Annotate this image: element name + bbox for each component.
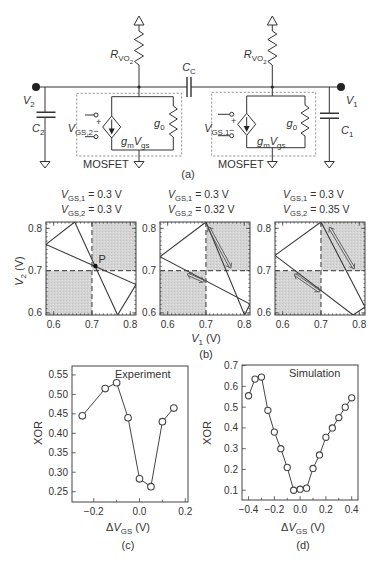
x-tick-label: −0.4: [239, 504, 259, 515]
chart-b2: 0.60.70.80.60.70.8: [142, 222, 252, 330]
plot-frame: [72, 366, 188, 502]
data-point-marker: [336, 414, 342, 420]
y-tick-label: 0.6: [257, 307, 271, 318]
conductance-g0-label: g0: [154, 117, 165, 132]
text-segment: (V): [132, 521, 150, 533]
b1-header-vgs2: VGS,2 = 0.3 V: [61, 203, 122, 218]
text-segment: = 0.35 V: [307, 203, 349, 215]
chart-c: −0.20.00.20.250.300.350.400.450.500.55: [49, 366, 193, 517]
panel-c-label: (c): [122, 539, 135, 551]
b2-header-vgs2: VGS,2 = 0.32 V: [168, 203, 235, 218]
y-tick-label: 0.2: [224, 464, 238, 475]
text-segment: 2: [30, 100, 34, 109]
mosfet-model-right: + − VGS,1 g0 gmVgs MOSFET: [204, 87, 316, 170]
y-tick-label: 0.4: [224, 422, 238, 433]
text-segment: VO: [252, 54, 263, 63]
chart-b3: 0.60.70.80.60.70.8: [257, 222, 367, 330]
text-segment: C: [190, 67, 196, 76]
ground-icon: [324, 162, 334, 169]
coupling-capacitor-icon: [187, 77, 191, 97]
text-segment: R: [244, 48, 252, 60]
b-x-axis-label: V1 (V): [191, 332, 220, 347]
data-series-line: [82, 383, 174, 487]
chart-c-y-axis-label: XOR: [32, 421, 44, 445]
capacitor-c1-icon: [320, 113, 339, 118]
x-tick-label: 0.6: [47, 319, 61, 330]
y-tick-label: 0.50: [49, 389, 69, 400]
panel-d-label: (d): [296, 539, 309, 551]
text-segment: 2: [263, 59, 267, 65]
panel-b-phase-planes: VGS,1 = 0.3 V VGS,2 = 0.3 V VGS,1 = 0.3 …: [13, 188, 367, 360]
shaded-region: [206, 222, 250, 271]
data-point-marker: [79, 413, 86, 420]
ground-icon: [40, 162, 50, 169]
data-point-marker: [125, 414, 132, 421]
text-segment: 2: [40, 128, 44, 137]
data-point-marker: [258, 374, 264, 380]
text-segment: 0: [293, 123, 298, 132]
vo2-resistor-icon: [268, 25, 277, 87]
plot-area: [275, 222, 365, 315]
figure-canvas: CC V2 V1 RVO2 RVO2 C2 C1: [0, 0, 378, 568]
data-point-marker: [252, 376, 258, 382]
data-point-marker: [136, 476, 143, 483]
figure: CC V2 V1 RVO2 RVO2 C2 C1: [0, 0, 378, 568]
mosfet-model-left: + − VGS,2 g0 gmVgs MOSFET: [68, 87, 182, 170]
ground-icon: [267, 162, 277, 169]
minus-sign: −: [229, 125, 234, 135]
text-segment: (V): [13, 256, 25, 274]
data-point-marker: [310, 465, 316, 471]
y-tick-label: 0.35: [49, 447, 69, 458]
x-tick-label: 0.8: [237, 319, 251, 330]
node-v2-label: V2: [23, 94, 35, 109]
minus-sign: −: [93, 126, 98, 136]
y-tick-label: 0.6: [142, 307, 156, 318]
x-tick-label: 0.6: [161, 319, 175, 330]
x-tick-label: −0.2: [84, 506, 104, 517]
text-segment: = 0.3 V: [192, 188, 228, 200]
text-segment: (V): [307, 521, 325, 533]
text-segment: gs: [277, 141, 285, 150]
node-v1-label: V1: [346, 94, 358, 109]
data-point-marker: [245, 393, 251, 399]
text-segment: VO: [118, 54, 129, 63]
chart-d-x-axis-label: ΔVGS (V): [281, 521, 325, 536]
y-tick-label: 0.25: [49, 486, 69, 497]
data-point-marker: [323, 434, 329, 440]
output-conductance-resistor-icon: [301, 96, 309, 148]
x-tick-label: 0.8: [352, 319, 366, 330]
b3-header-vgs2: VGS,2 = 0.35 V: [283, 203, 350, 218]
data-point-marker: [349, 395, 355, 401]
conductance-g0-label: g0: [287, 117, 298, 132]
chart-d: −0.4−0.20.00.20.40.10.20.30.40.50.60.7: [224, 360, 359, 514]
shaded-region: [46, 271, 92, 315]
x-tick-label: −0.2: [264, 504, 284, 515]
gate-voltage-vgs1-label: VGS,1: [204, 122, 230, 137]
chart-d-y-axis-label: XOR: [201, 421, 213, 445]
y-tick-label: 0.8: [28, 223, 42, 234]
y-tick-label: 0.45: [49, 408, 69, 419]
text-segment: = 0.3 V: [307, 188, 343, 200]
y-tick-label: 0.55: [49, 369, 69, 380]
text-segment: (V): [203, 332, 221, 344]
capacitor-c2-label: C2: [32, 122, 44, 137]
vo2-resistor-left-label: RVO2: [110, 48, 133, 65]
panel-b-label: (b): [199, 348, 212, 360]
text-segment: 0: [160, 123, 165, 132]
x-tick-label: 0.7: [85, 319, 99, 330]
b2-header-vgs1: VGS,1 = 0.3 V: [168, 188, 229, 203]
mosfet-left-label: MOSFET: [83, 158, 129, 170]
y-tick-label: 0.30: [49, 467, 69, 478]
data-point-marker: [303, 485, 309, 491]
x-tick-label: 0.7: [199, 319, 213, 330]
text-segment: GS: [296, 527, 307, 536]
data-point-marker: [329, 425, 335, 431]
data-point-marker: [297, 486, 303, 492]
y-tick-label: 0.7: [28, 265, 42, 276]
x-tick-label: 0.2: [178, 506, 192, 517]
y-tick-label: 0.1: [224, 485, 238, 496]
output-conductance-resistor-icon: [169, 97, 177, 150]
x-tick-label: 0.2: [319, 504, 333, 515]
b-y-axis-label: V2 (V): [13, 256, 28, 285]
y-tick-label: 0.7: [142, 265, 156, 276]
